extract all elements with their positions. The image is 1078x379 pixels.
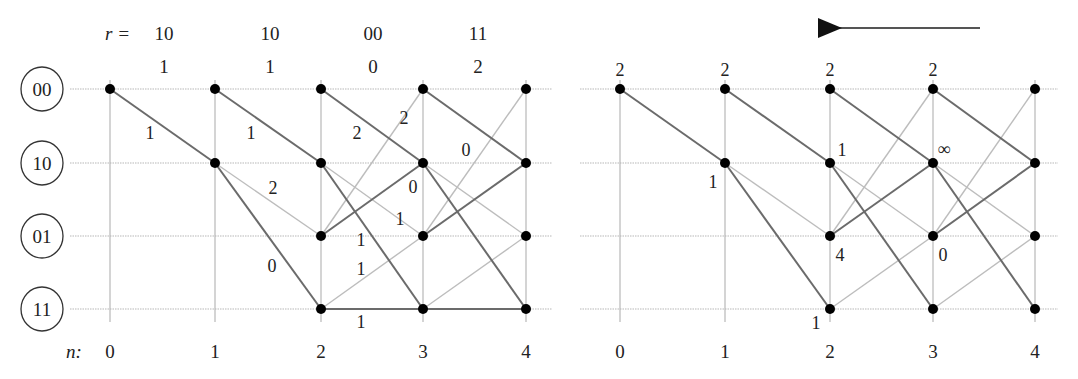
svg-text:4: 4 <box>521 341 531 362</box>
left-time-axis: n: 0 1 2 3 4 <box>66 341 531 362</box>
state-label-10: 10 <box>21 141 63 185</box>
svg-text:10: 10 <box>33 153 52 174</box>
svg-text:2: 2 <box>400 108 409 128</box>
svg-text:∞: ∞ <box>938 139 951 159</box>
svg-text:2: 2 <box>825 341 835 362</box>
received-label: r = <box>105 23 130 44</box>
svg-text:2: 2 <box>316 341 326 362</box>
svg-text:00: 00 <box>33 79 52 100</box>
svg-text:2: 2 <box>473 56 483 77</box>
right-trellis: 2 2 2 2 1 1 ∞ 4 0 1 0 1 2 3 4 <box>580 28 1058 362</box>
svg-text:2: 2 <box>721 60 730 80</box>
svg-text:1: 1 <box>838 140 847 160</box>
svg-text:1: 1 <box>396 209 405 229</box>
svg-text:1: 1 <box>265 56 275 77</box>
received-sequence: r = 10 10 00 11 1 1 0 2 <box>105 23 487 77</box>
svg-text:3: 3 <box>418 341 428 362</box>
svg-text:1: 1 <box>709 172 718 192</box>
right-dark-edges <box>620 89 1035 309</box>
svg-text:1: 1 <box>812 313 821 333</box>
left-nodes <box>105 84 531 314</box>
state-label-01: 01 <box>21 214 63 258</box>
svg-text:2: 2 <box>269 178 278 198</box>
svg-text:0: 0 <box>615 341 625 362</box>
svg-text:4: 4 <box>836 245 845 265</box>
svg-text:10: 10 <box>155 23 174 44</box>
svg-text:4: 4 <box>1030 341 1040 362</box>
svg-text:1: 1 <box>159 56 169 77</box>
state-label-00: 00 <box>21 67 63 111</box>
svg-text:1: 1 <box>357 312 366 332</box>
svg-text:0: 0 <box>939 245 948 265</box>
svg-text:00: 00 <box>364 23 383 44</box>
left-dark-edges <box>110 89 526 309</box>
svg-text:2: 2 <box>826 60 835 80</box>
path-metric-labels: 2 2 2 2 1 1 ∞ 4 0 1 <box>616 60 951 333</box>
svg-text:0: 0 <box>409 177 418 197</box>
svg-text:2: 2 <box>929 60 938 80</box>
svg-text:1: 1 <box>247 123 256 143</box>
state-label-11: 11 <box>21 287 63 331</box>
svg-text:0: 0 <box>368 56 378 77</box>
svg-text:10: 10 <box>261 23 280 44</box>
trellis-figure: 00 10 01 11 <box>0 0 1078 379</box>
svg-text:1: 1 <box>357 259 366 279</box>
left-grid <box>70 80 552 322</box>
svg-text:01: 01 <box>33 226 52 247</box>
svg-text:1: 1 <box>210 341 220 362</box>
time-label: n: <box>66 341 82 362</box>
branch-metric-labels: 1 1 2 0 2 2 1 0 1 1 1 0 <box>146 108 471 332</box>
svg-text:1: 1 <box>720 341 730 362</box>
svg-text:2: 2 <box>616 60 625 80</box>
svg-text:0: 0 <box>268 256 277 276</box>
svg-text:3: 3 <box>928 341 938 362</box>
right-time-axis: 0 1 2 3 4 <box>615 341 1040 362</box>
svg-text:2: 2 <box>353 123 362 143</box>
svg-text:0: 0 <box>105 341 115 362</box>
right-nodes <box>615 84 1040 314</box>
svg-text:1: 1 <box>146 123 155 143</box>
svg-text:1: 1 <box>357 230 366 250</box>
svg-text:11: 11 <box>469 23 487 44</box>
svg-text:11: 11 <box>33 299 51 320</box>
svg-text:0: 0 <box>462 140 471 160</box>
left-trellis: 00 10 01 11 <box>21 23 552 362</box>
